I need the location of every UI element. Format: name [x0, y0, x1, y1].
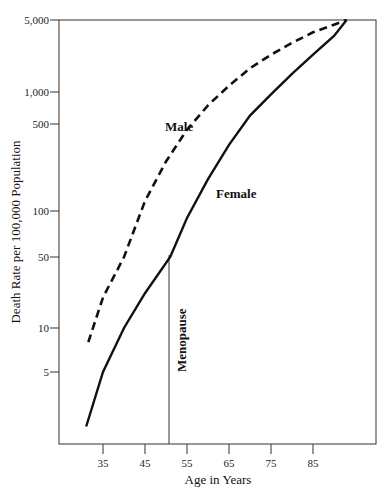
y-tick-label: 100	[33, 205, 50, 217]
y-axis: 5,0001,00050010050105	[24, 14, 59, 378]
y-tick-label: 500	[33, 118, 50, 130]
y-tick-label: 5	[44, 366, 50, 378]
male-label: Male	[165, 119, 193, 134]
female-label: Female	[216, 186, 257, 201]
chart: 5,0001,00050010050105 354555657585 Male …	[0, 0, 386, 495]
x-tick-label: 65	[224, 457, 236, 469]
y-tick-label: 10	[38, 322, 50, 334]
male-series-line	[88, 20, 346, 342]
y-tick-label: 1,000	[24, 86, 49, 98]
x-tick-label: 85	[308, 457, 320, 469]
x-tick-label: 75	[266, 457, 278, 469]
x-tick-label: 55	[182, 457, 194, 469]
x-tick-label: 45	[140, 457, 152, 469]
x-axis: 354555657585	[98, 444, 320, 469]
y-tick-label: 50	[38, 251, 50, 263]
plot-frame	[59, 20, 376, 444]
y-axis-title: Death Rate per 100,000 Population	[8, 140, 23, 324]
menopause-label: Menopause	[174, 308, 189, 372]
x-tick-label: 35	[98, 457, 110, 469]
x-axis-title: Age in Years	[185, 472, 252, 487]
female-series-line	[86, 20, 346, 427]
y-tick-label: 5,000	[24, 14, 49, 26]
